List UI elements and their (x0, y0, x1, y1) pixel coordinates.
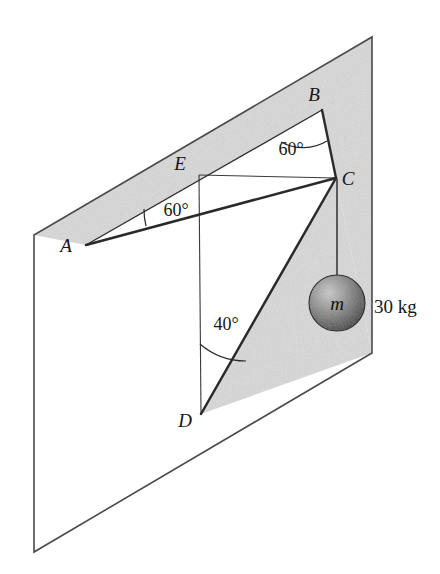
angle-label-at-D: 40° (213, 314, 238, 334)
point-label-A: A (58, 235, 72, 256)
diagram-canvas: A B C D E 60° 60° 40° m 30 kg (0, 0, 440, 574)
mass-weight-label: 30 kg (374, 296, 417, 317)
point-label-B: B (308, 84, 320, 105)
point-label-C: C (342, 168, 355, 189)
point-label-E: E (173, 153, 186, 174)
angle-label-at-A: 60° (163, 200, 188, 220)
physics-diagram-figure: A B C D E 60° 60° 40° m 30 kg (0, 0, 440, 574)
point-label-D: D (177, 410, 192, 431)
mass-symbol-label: m (330, 293, 344, 314)
angle-label-at-B: 60° (278, 139, 303, 159)
